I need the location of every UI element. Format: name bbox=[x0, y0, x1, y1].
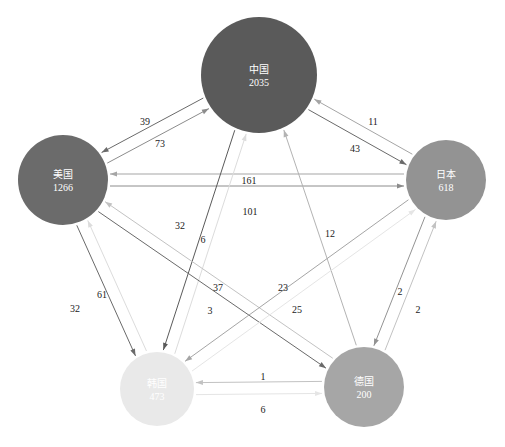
edge-value-label: 2 bbox=[398, 286, 403, 297]
edge-korea-to-germany bbox=[196, 393, 322, 394]
edge-value-label: 12 bbox=[325, 228, 335, 239]
edge-value-label: 6 bbox=[261, 404, 266, 415]
arrowhead-icon bbox=[185, 355, 192, 361]
arrowhead-icon bbox=[105, 202, 112, 208]
edge-korea-to-usa bbox=[88, 220, 147, 351]
edge-value-label: 61 bbox=[97, 289, 107, 300]
edge-value-label: 6 bbox=[201, 234, 206, 245]
edges-layer bbox=[77, 98, 436, 396]
edge-value-label: 25 bbox=[292, 304, 302, 315]
node-circle bbox=[406, 140, 486, 220]
arrowhead-icon bbox=[399, 159, 406, 165]
arrowhead-icon bbox=[431, 221, 436, 228]
edge-value-label: 1 bbox=[261, 371, 266, 382]
arrowhead-icon bbox=[163, 343, 168, 350]
edge-germany-to-japan bbox=[385, 221, 436, 350]
arrowhead-icon bbox=[130, 348, 135, 355]
edge-value-label: 32 bbox=[70, 303, 80, 314]
node-usa[interactable]: 美国1266 bbox=[18, 135, 108, 225]
node-name-label: 日本 bbox=[436, 168, 456, 180]
edge-china-to-korea bbox=[163, 130, 234, 350]
edge-korea-to-china bbox=[175, 134, 246, 354]
arrowhead-icon bbox=[319, 362, 326, 368]
edge-value-label: 32 bbox=[175, 220, 185, 231]
edge-value-label: 73 bbox=[155, 138, 165, 149]
node-korea[interactable]: 韩国473 bbox=[120, 352, 194, 426]
edge-japan-to-china bbox=[314, 99, 412, 154]
edge-value-label: 3 bbox=[208, 305, 213, 316]
edge-value-label: 2 bbox=[416, 304, 421, 315]
edge-china-to-usa bbox=[102, 98, 204, 152]
edge-korea-to-japan bbox=[192, 209, 415, 371]
node-circle bbox=[18, 135, 108, 225]
node-name-label: 德国 bbox=[354, 375, 374, 387]
node-china[interactable]: 中国2035 bbox=[201, 17, 317, 133]
node-germany[interactable]: 德国200 bbox=[324, 347, 404, 427]
node-value-label: 473 bbox=[150, 391, 165, 402]
edge-value-label: 161 bbox=[242, 175, 257, 186]
node-value-label: 618 bbox=[439, 182, 454, 193]
edge-value-label: 39 bbox=[140, 116, 150, 127]
arrowhead-icon bbox=[88, 220, 93, 227]
flow-network-diagram: 中国2035美国1266日本618韩国473德国200 397311431611… bbox=[0, 0, 505, 447]
node-circle bbox=[201, 17, 317, 133]
node-circle bbox=[324, 347, 404, 427]
arrowhead-icon bbox=[242, 134, 247, 141]
edge-japan-to-korea bbox=[185, 200, 408, 362]
node-value-label: 2035 bbox=[249, 77, 269, 88]
edge-value-label: 37 bbox=[213, 282, 223, 293]
arrowhead-icon bbox=[110, 172, 117, 177]
arrowhead-icon bbox=[315, 391, 322, 396]
edge-germany-to-korea bbox=[196, 381, 322, 382]
arrowhead-icon bbox=[374, 338, 379, 345]
arrowhead-icon bbox=[314, 99, 321, 105]
node-japan[interactable]: 日本618 bbox=[406, 140, 486, 220]
edge-japan-to-germany bbox=[374, 217, 425, 346]
edge-value-label: 11 bbox=[368, 116, 378, 127]
node-name-label: 韩国 bbox=[147, 377, 167, 389]
edge-usa-to-china bbox=[107, 109, 209, 163]
edge-china-to-japan bbox=[308, 110, 406, 165]
arrowhead-icon bbox=[102, 147, 109, 153]
node-value-label: 1266 bbox=[53, 182, 73, 193]
arrowhead-icon bbox=[196, 380, 203, 385]
arrowhead-icon bbox=[202, 109, 209, 115]
edge-value-label: 101 bbox=[243, 206, 258, 217]
arrowhead-icon bbox=[397, 184, 404, 189]
edge-value-label: 43 bbox=[350, 143, 360, 154]
node-value-label: 200 bbox=[357, 389, 372, 400]
node-name-label: 美国 bbox=[53, 168, 73, 180]
arrowhead-icon bbox=[408, 209, 415, 215]
node-circle bbox=[120, 352, 194, 426]
node-name-label: 中国 bbox=[249, 63, 269, 75]
arrowhead-icon bbox=[284, 130, 289, 137]
edge-value-label: 23 bbox=[278, 282, 288, 293]
